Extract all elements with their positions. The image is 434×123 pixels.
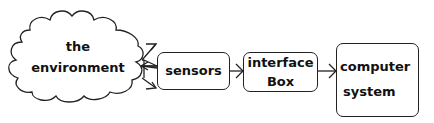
environment-label: the environment (28, 38, 128, 76)
sensors-to-environment-arrows (141, 44, 157, 89)
interface-label-line-2: Box (243, 73, 318, 90)
computer-label: computer system (340, 58, 410, 100)
environment-label-line-2: environment (28, 59, 128, 76)
sensors-to-interface-arrow (230, 64, 243, 78)
environment-label-line-1: the (28, 38, 128, 55)
sensors-label: sensors (157, 62, 230, 79)
computer-label-line-2: system (340, 83, 410, 100)
interface-label-line-1: interface (243, 54, 318, 71)
interface-to-computer-arrow (318, 64, 336, 78)
interface-label: interface Box (243, 54, 318, 90)
sensors-label-text: sensors (165, 63, 222, 78)
computer-label-line-1: computer (340, 58, 410, 75)
